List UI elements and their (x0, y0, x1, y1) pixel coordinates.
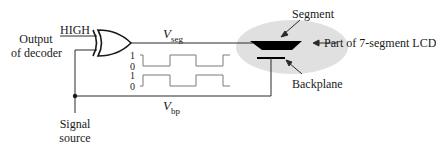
level-1-top: 1 (130, 51, 135, 61)
segment-label: Segment (292, 7, 334, 21)
signal-line2: source (55, 131, 95, 145)
vseg-v: V (163, 26, 171, 41)
vseg-label: Vseg (163, 27, 183, 46)
level-0-bottom: 0 (130, 82, 135, 92)
vseg-waveform (140, 55, 230, 66)
signal-line1: Signal (55, 117, 95, 131)
signal-source-label: Signal source (55, 117, 95, 145)
vbp-sub: bp (171, 106, 180, 116)
vseg-sub: seg (171, 34, 183, 44)
vbp-label: Vbp (163, 99, 180, 118)
vbp-v: V (163, 98, 171, 113)
junction-dot (73, 94, 77, 98)
vbp-waveform (140, 75, 230, 86)
xor-gate (93, 30, 131, 56)
backplane-label: Backplane (292, 77, 343, 91)
decoder-output-label: Output of decoder (11, 32, 61, 60)
decoder-output-line1: Output (11, 32, 61, 46)
decoder-output-line2: of decoder (11, 46, 61, 60)
high-label: HIGH (60, 23, 90, 37)
level-1-bottom: 1 (130, 71, 135, 81)
lcd-part-label: Part of 7-segment LCD (324, 36, 436, 50)
